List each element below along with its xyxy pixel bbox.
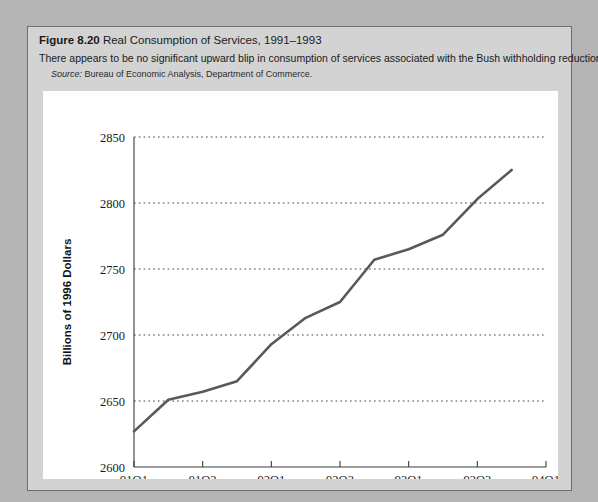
x-tick-label: 94Q1 xyxy=(532,473,558,479)
x-tick-label: 91Q1 xyxy=(120,473,148,479)
y-tick-label: 2850 xyxy=(100,131,125,145)
x-tick-labels: 91Q191Q392Q192Q393Q193Q394Q1 xyxy=(120,461,558,479)
line-chart: 260026502700275028002850 Billions of 199… xyxy=(43,91,558,479)
y-tick-label: 2800 xyxy=(100,197,125,211)
figure-subtitle: There appears to be no significant upwar… xyxy=(39,51,563,65)
figure-title: Real Consumption of Services, 1991–1993 xyxy=(103,34,322,46)
figure-caption: Figure 8.20 Real Consumption of Services… xyxy=(39,33,563,81)
source-label: Source: xyxy=(51,69,82,79)
figure-number: Figure 8.20 xyxy=(39,34,100,46)
plot-area-card: 260026502700275028002850 Billions of 199… xyxy=(43,91,558,479)
source-text: Bureau of Economic Analysis, Department … xyxy=(85,69,313,79)
x-tick-label: 93Q1 xyxy=(395,473,423,479)
y-tick-labels: 260026502700275028002850 xyxy=(100,131,125,475)
series-group xyxy=(134,170,512,431)
figure-source: Source: Bureau of Economic Analysis, Dep… xyxy=(51,68,563,81)
x-axis: 91Q191Q392Q192Q393Q193Q394Q1 Quarter xyxy=(120,461,558,479)
y-axis-title: Billions of 1996 Dollars xyxy=(61,239,73,366)
figure-box: Figure 8.20 Real Consumption of Services… xyxy=(27,26,572,491)
gridlines xyxy=(134,137,546,401)
y-tick-label: 2700 xyxy=(100,329,125,343)
x-tick-label: 93Q3 xyxy=(463,473,491,479)
x-tick-label: 91Q3 xyxy=(189,473,217,479)
y-tick-label: 2650 xyxy=(100,395,125,409)
figure-title-line: Figure 8.20 Real Consumption of Services… xyxy=(39,33,563,48)
x-tick-label: 92Q1 xyxy=(257,473,285,479)
x-tick-label: 92Q3 xyxy=(326,473,354,479)
y-tick-label: 2750 xyxy=(100,263,125,277)
y-axis: 260026502700275028002850 Billions of 199… xyxy=(61,131,134,475)
consumption-series-line xyxy=(134,170,512,431)
